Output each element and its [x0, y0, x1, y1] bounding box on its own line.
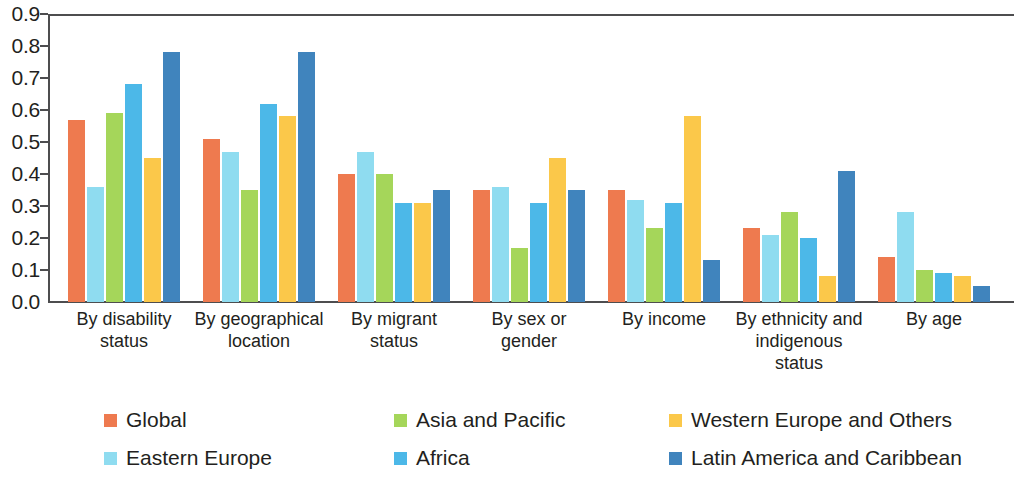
y-tick-mark	[40, 109, 48, 111]
y-tick-mark	[40, 237, 48, 239]
bar[interactable]	[144, 158, 161, 302]
bar[interactable]	[298, 52, 315, 302]
bar[interactable]	[376, 174, 393, 302]
legend-label: Latin America and Caribbean	[691, 446, 962, 470]
bar-group	[608, 14, 720, 302]
y-tick-mark	[40, 77, 48, 79]
legend-item[interactable]: Africa	[394, 446, 470, 470]
bar[interactable]	[106, 113, 123, 302]
bar[interactable]	[878, 257, 895, 302]
y-tick-label: 0.5	[11, 130, 40, 154]
bar[interactable]	[395, 203, 412, 302]
legend-swatch-icon	[669, 452, 682, 465]
bar[interactable]	[743, 228, 760, 302]
bar[interactable]	[87, 187, 104, 302]
bar-group	[338, 14, 450, 302]
bar[interactable]	[897, 212, 914, 302]
y-tick-label: 0.7	[11, 66, 40, 90]
x-axis-category-labels: By disabilitystatusBy geographicallocati…	[50, 308, 1014, 400]
bar[interactable]	[279, 116, 296, 302]
bar[interactable]	[819, 276, 836, 302]
legend-item[interactable]: Global	[104, 408, 187, 432]
legend-label: Eastern Europe	[126, 446, 272, 470]
bar[interactable]	[916, 270, 933, 302]
y-tick-label: 0.8	[11, 34, 40, 58]
x-axis-category-label-line: indigenous	[719, 330, 879, 352]
bar[interactable]	[433, 190, 450, 302]
x-axis-category-label: By age	[854, 308, 1014, 330]
bar[interactable]	[357, 152, 374, 302]
bar[interactable]	[511, 248, 528, 302]
legend-item[interactable]: Western Europe and Others	[669, 408, 952, 432]
y-tick-label: 0.3	[11, 194, 40, 218]
legend-label: Global	[126, 408, 187, 432]
bar[interactable]	[838, 171, 855, 302]
y-tick-label: 0.4	[11, 162, 40, 186]
legend-item[interactable]: Asia and Pacific	[394, 408, 565, 432]
chart-legend: GlobalEastern EuropeAsia and PacificAfri…	[104, 408, 1020, 479]
bar[interactable]	[203, 139, 220, 302]
bar[interactable]	[608, 190, 625, 302]
bar-group	[878, 14, 990, 302]
bar-group	[203, 14, 315, 302]
bar[interactable]	[241, 190, 258, 302]
bar[interactable]	[260, 104, 277, 302]
y-tick-label: 0.9	[11, 2, 40, 26]
legend-swatch-icon	[104, 452, 117, 465]
y-tick-mark	[40, 205, 48, 207]
bar[interactable]	[568, 190, 585, 302]
bar[interactable]	[665, 203, 682, 302]
y-tick-mark	[40, 141, 48, 143]
legend-swatch-icon	[104, 414, 117, 427]
bar[interactable]	[68, 120, 85, 302]
bar[interactable]	[954, 276, 971, 302]
bar[interactable]	[549, 158, 566, 302]
legend-label: Asia and Pacific	[416, 408, 565, 432]
bar-group	[68, 14, 180, 302]
legend-swatch-icon	[394, 452, 407, 465]
y-tick-mark	[40, 45, 48, 47]
bar[interactable]	[935, 273, 952, 302]
bar[interactable]	[800, 238, 817, 302]
plot-area	[50, 14, 1014, 302]
x-axis-category-label-line: By age	[854, 308, 1014, 330]
bar[interactable]	[684, 116, 701, 302]
y-axis: 0.00.10.20.30.40.50.60.70.80.9	[0, 0, 46, 320]
bar[interactable]	[627, 200, 644, 302]
y-tick-label: 0.2	[11, 226, 40, 250]
bar[interactable]	[762, 235, 779, 302]
bar[interactable]	[338, 174, 355, 302]
legend-item[interactable]: Latin America and Caribbean	[669, 446, 962, 470]
bar[interactable]	[530, 203, 547, 302]
legend-label: Western Europe and Others	[691, 408, 952, 432]
y-tick-label: 0.1	[11, 258, 40, 282]
y-tick-label: 0.0	[11, 290, 40, 314]
bar[interactable]	[492, 187, 509, 302]
bar-chart: 0.00.10.20.30.40.50.60.70.80.9 By disabi…	[0, 0, 1020, 479]
bar[interactable]	[781, 212, 798, 302]
y-tick-mark	[40, 269, 48, 271]
bar[interactable]	[473, 190, 490, 302]
bar[interactable]	[703, 260, 720, 302]
bar[interactable]	[222, 152, 239, 302]
y-tick-label: 0.6	[11, 98, 40, 122]
bar[interactable]	[125, 84, 142, 302]
x-axis-category-label-line: status	[719, 352, 879, 374]
legend-item[interactable]: Eastern Europe	[104, 446, 272, 470]
bar[interactable]	[973, 286, 990, 302]
y-tick-mark	[40, 173, 48, 175]
bar[interactable]	[414, 203, 431, 302]
x-axis-category-label-line: gender	[449, 330, 609, 352]
bar[interactable]	[646, 228, 663, 302]
legend-swatch-icon	[394, 414, 407, 427]
legend-label: Africa	[416, 446, 470, 470]
bar-group	[473, 14, 585, 302]
bar-group	[743, 14, 855, 302]
legend-swatch-icon	[669, 414, 682, 427]
bar[interactable]	[163, 52, 180, 302]
y-tick-mark	[40, 13, 48, 15]
